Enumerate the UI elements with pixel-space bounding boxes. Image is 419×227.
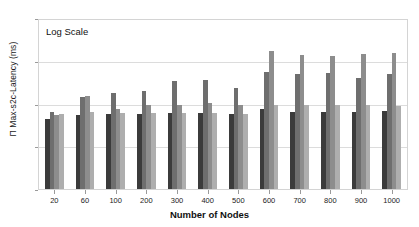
x-tick-mark (269, 190, 270, 194)
bar-group (223, 20, 254, 189)
bar-group (39, 20, 70, 189)
x-tick-mark (330, 190, 331, 194)
x-tick-mark (208, 190, 209, 194)
x-tick-mark (392, 190, 393, 194)
x-axis-title: Number of Nodes (0, 209, 419, 220)
bar (59, 114, 64, 189)
bar (335, 105, 340, 189)
bar (304, 105, 309, 190)
x-tick-mark (116, 190, 117, 194)
bar-group (100, 20, 131, 189)
bar (90, 112, 95, 189)
bar-group (284, 20, 315, 189)
bar-group (376, 20, 407, 189)
bar (396, 106, 401, 189)
bars-layer (39, 20, 407, 189)
y-tick-mark (35, 105, 38, 106)
x-tick-mark (177, 190, 178, 194)
bar-group (70, 20, 101, 189)
x-tick-label: 1000 (372, 196, 412, 205)
y-tick-mark (35, 190, 38, 191)
bar (274, 105, 279, 189)
y-tick-mark (35, 62, 38, 63)
bar (212, 113, 217, 189)
chart-figure: Π Max-s2c-Latency (ms) Log Scale 1101001… (0, 0, 419, 227)
bar (151, 113, 156, 189)
bar (120, 113, 125, 189)
x-tick-mark (85, 190, 86, 194)
x-tick-mark (300, 190, 301, 194)
bar-group (131, 20, 162, 189)
x-tick-mark (146, 190, 147, 194)
bar-group (254, 20, 285, 189)
bar-group (162, 20, 193, 189)
x-tick-mark (54, 190, 55, 194)
bar-group (315, 20, 346, 189)
bar (243, 114, 248, 189)
bar-group (192, 20, 223, 189)
legend-cropped (0, 0, 419, 9)
y-tick-mark (35, 147, 38, 148)
bar-group (346, 20, 377, 189)
y-tick-mark (35, 19, 38, 20)
x-tick-mark (238, 190, 239, 194)
x-tick-mark (361, 190, 362, 194)
y-axis-title: Π Max-s2c-Latency (ms) (8, 14, 18, 164)
bar (182, 113, 187, 189)
bar (366, 105, 371, 190)
